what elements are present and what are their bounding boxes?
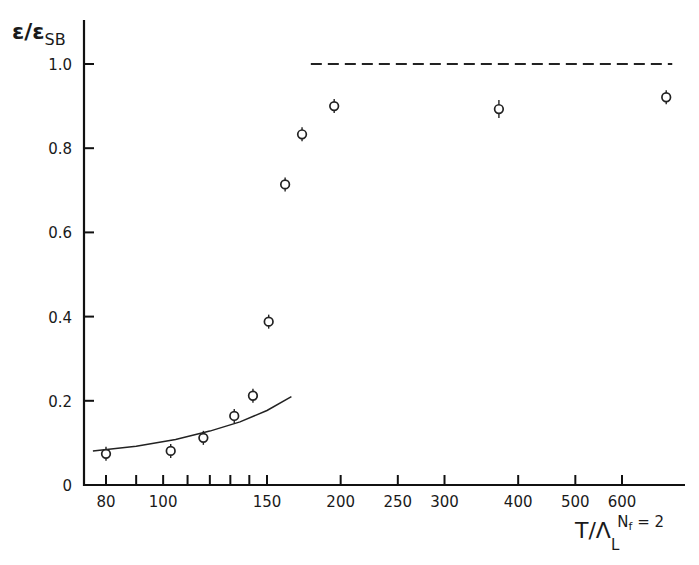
data-point-marker [166, 447, 175, 456]
chart: 00.20.40.60.81.0801001502002503004005006… [0, 0, 699, 565]
data-point-marker [102, 450, 111, 459]
x-axis-label: T/ΛLNf = 2 [574, 513, 664, 554]
data-point-marker [264, 317, 273, 326]
y-tick-label: 1.0 [48, 56, 72, 74]
data-point-marker [495, 105, 504, 114]
data-point-marker [281, 180, 290, 189]
x-tick-label: 150 [253, 493, 282, 511]
x-tick-label: 400 [504, 493, 533, 511]
y-tick-label: 0.8 [48, 140, 72, 158]
y-axis-label: ε/εSB [12, 19, 66, 49]
data-point-marker [662, 93, 671, 102]
curves [93, 64, 672, 451]
data-point-marker [298, 130, 307, 139]
y-tick-label: 0.2 [48, 393, 72, 411]
data-point-marker [199, 434, 208, 443]
axes: 00.20.40.60.81.0801001502002503004005006… [48, 20, 685, 511]
fit-curve [93, 397, 292, 451]
data-point-marker [330, 102, 339, 111]
x-tick-label: 500 [561, 493, 590, 511]
data-point-marker [230, 412, 239, 421]
x-tick-label: 100 [149, 493, 178, 511]
x-tick-label: 80 [96, 493, 115, 511]
y-tick-label: 0 [62, 477, 72, 495]
data-point-marker [249, 391, 258, 400]
x-tick-label: 600 [608, 493, 637, 511]
y-tick-label: 0.6 [48, 224, 72, 242]
x-tick-label: 200 [326, 493, 355, 511]
x-tick-label: 250 [383, 493, 412, 511]
x-tick-label: 300 [430, 493, 459, 511]
data-points [102, 90, 671, 461]
axis-labels: ε/εSB T/ΛLNf = 2 [12, 19, 664, 554]
y-tick-label: 0.4 [48, 309, 72, 327]
